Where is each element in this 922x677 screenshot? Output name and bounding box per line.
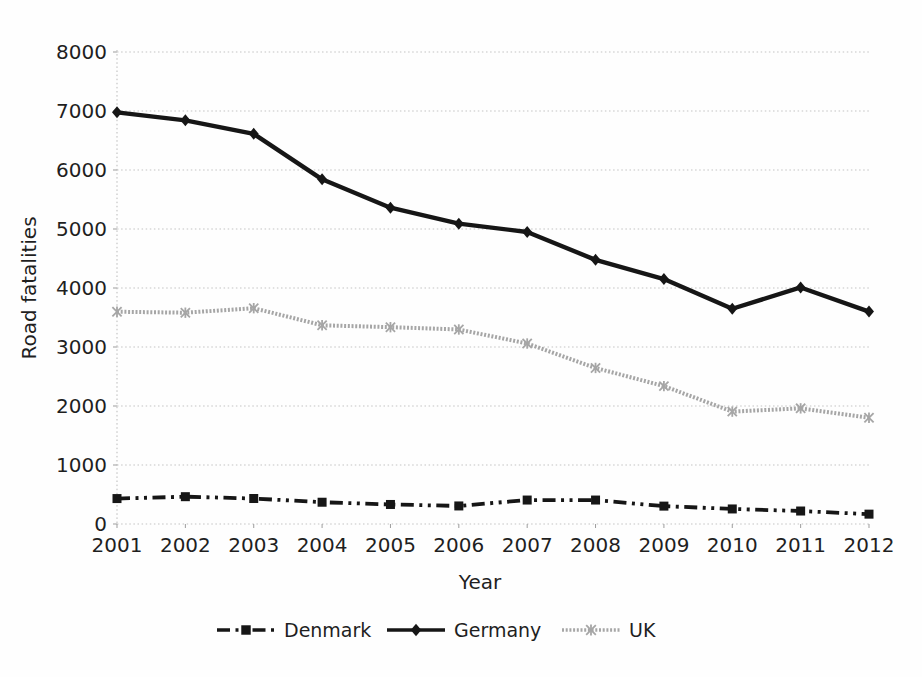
x-tick-label: 2003	[228, 533, 279, 557]
marker-square	[454, 501, 463, 510]
marker-diamond	[522, 226, 532, 238]
marker-square	[523, 496, 532, 505]
marker-diamond	[112, 106, 122, 118]
y-tick-label: 4000	[56, 276, 107, 300]
marker-diamond	[454, 218, 464, 230]
marker-x-star	[796, 403, 805, 413]
marker-diamond	[180, 114, 190, 126]
series-uk	[112, 303, 873, 423]
marker-diamond	[659, 273, 669, 285]
legend-label: UK	[629, 619, 656, 641]
marker-x-star	[112, 307, 121, 317]
marker-square	[659, 502, 668, 511]
x-tick-label: 2010	[707, 533, 758, 557]
legend-item-uk: UK	[562, 619, 656, 641]
chart-container: 0100020003000400050006000700080002001200…	[0, 0, 922, 677]
x-tick-label: 2006	[433, 533, 484, 557]
marker-diamond	[411, 624, 422, 637]
x-tick-label: 2004	[297, 533, 348, 557]
x-tick-label: 2011	[775, 533, 826, 557]
marker-diamond	[796, 281, 806, 293]
y-tick-label: 3000	[56, 335, 107, 359]
marker-square	[113, 494, 122, 503]
x-tick-label: 2002	[160, 533, 211, 557]
legend: DenmarkGermanyUK	[217, 619, 656, 641]
legend-label: Denmark	[284, 619, 371, 641]
series-line	[117, 308, 869, 418]
series-line	[117, 112, 869, 311]
marker-diamond	[385, 202, 395, 214]
marker-x-star	[586, 625, 596, 636]
series-layer	[112, 106, 874, 518]
x-tick-label: 2005	[365, 533, 416, 557]
marker-square	[865, 510, 874, 519]
y-tick-label: 7000	[56, 99, 107, 123]
x-tick-label: 2009	[638, 533, 689, 557]
series-denmark	[113, 492, 874, 518]
marker-square	[728, 504, 737, 513]
marker-square	[249, 494, 258, 503]
y-tick-label: 5000	[56, 217, 107, 241]
y-axis-title: Road fatalities	[17, 216, 41, 359]
marker-x-star	[864, 412, 873, 422]
marker-square	[591, 496, 600, 505]
grid-layer	[117, 52, 869, 524]
marker-square	[318, 498, 327, 507]
series-germany	[112, 106, 874, 317]
y-tick-label: 6000	[56, 158, 107, 182]
y-tick-label: 8000	[56, 40, 107, 64]
marker-diamond	[591, 254, 601, 266]
fatalities-line-chart: 0100020003000400050006000700080002001200…	[0, 0, 922, 677]
legend-item-denmark: Denmark	[217, 619, 371, 641]
legend-label: Germany	[454, 619, 541, 641]
y-tick-label: 1000	[56, 453, 107, 477]
marker-square	[241, 625, 250, 634]
marker-square	[181, 492, 190, 501]
series-line	[117, 497, 869, 514]
marker-diamond	[864, 306, 874, 318]
marker-square	[796, 507, 805, 516]
y-tick-label: 2000	[56, 394, 107, 418]
x-tick-label: 2001	[92, 533, 143, 557]
x-tick-label: 2007	[502, 533, 553, 557]
legend-item-germany: Germany	[387, 619, 541, 641]
marker-square	[386, 500, 395, 509]
marker-diamond	[727, 303, 737, 315]
x-axis-title: Year	[458, 570, 502, 594]
x-tick-label: 2008	[570, 533, 621, 557]
x-tick-label: 2012	[844, 533, 895, 557]
